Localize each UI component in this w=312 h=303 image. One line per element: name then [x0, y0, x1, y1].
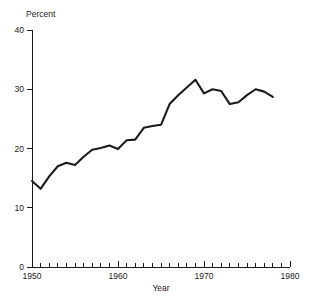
- y-axis-ticks: [27, 30, 32, 267]
- y-tick-label: 30: [15, 84, 25, 94]
- y-axis-tick-labels: 010203040: [15, 25, 25, 272]
- x-axis-minor-ticks: [32, 261, 290, 267]
- y-tick-label: 20: [15, 144, 25, 154]
- x-axis-title: Year: [152, 283, 169, 293]
- x-axis-tick-labels: 1950196019701980: [23, 271, 300, 281]
- y-tick-label: 10: [15, 203, 25, 213]
- x-tick-label: 1970: [195, 271, 214, 281]
- x-tick-label: 1980: [281, 271, 300, 281]
- x-tick-label: 1960: [109, 271, 128, 281]
- line-chart: 010203040 1950196019701980 Percent Year: [0, 0, 312, 303]
- y-tick-label: 40: [15, 25, 25, 35]
- y-axis-title: Percent: [26, 9, 56, 19]
- chart-canvas: 010203040 1950196019701980 Percent Year: [0, 0, 312, 303]
- data-series-line: [32, 80, 273, 189]
- x-tick-label: 1950: [23, 271, 42, 281]
